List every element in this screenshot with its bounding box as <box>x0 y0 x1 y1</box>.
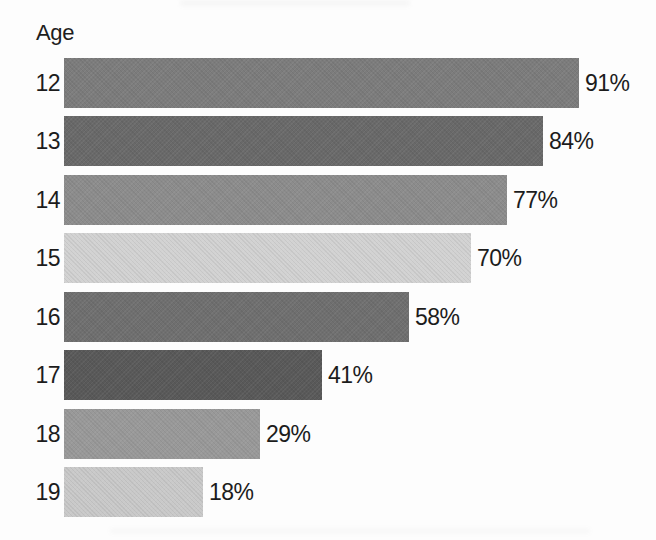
age-label: 14 <box>14 175 60 225</box>
bar <box>64 467 203 517</box>
value-label: 70% <box>477 233 522 283</box>
value-label: 77% <box>513 175 558 225</box>
chart-row: 1291% <box>0 58 656 108</box>
age-label: 16 <box>14 292 60 342</box>
chart-row: 1658% <box>0 292 656 342</box>
age-label: 12 <box>14 58 60 108</box>
age-label: 18 <box>14 409 60 459</box>
bar <box>64 350 322 400</box>
chart-row: 1477% <box>0 175 656 225</box>
bar <box>64 175 507 225</box>
chart-row: 1918% <box>0 467 656 517</box>
bar <box>64 116 543 166</box>
bar <box>64 409 260 459</box>
bar <box>64 58 579 108</box>
bar <box>64 233 471 283</box>
bar-chart: Age 1291%1384%1477%1570%1658%1741%1829%1… <box>0 0 656 540</box>
axis-title: Age <box>36 20 74 46</box>
chart-row: 1384% <box>0 116 656 166</box>
scan-artifact <box>180 0 410 6</box>
value-label: 18% <box>209 467 254 517</box>
chart-row: 1570% <box>0 233 656 283</box>
value-label: 29% <box>266 409 311 459</box>
scan-artifact <box>110 529 590 533</box>
value-label: 84% <box>549 116 594 166</box>
chart-row: 1829% <box>0 409 656 459</box>
value-label: 91% <box>585 58 630 108</box>
age-label: 17 <box>14 350 60 400</box>
bar <box>64 292 409 342</box>
age-label: 13 <box>14 116 60 166</box>
chart-row: 1741% <box>0 350 656 400</box>
age-label: 19 <box>14 467 60 517</box>
age-label: 15 <box>14 233 60 283</box>
value-label: 41% <box>328 350 373 400</box>
value-label: 58% <box>415 292 460 342</box>
